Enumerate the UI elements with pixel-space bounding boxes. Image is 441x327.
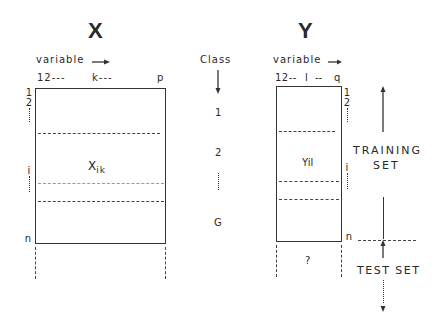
training-lower-line bbox=[383, 197, 384, 239]
matrix-y-extension-right bbox=[341, 245, 342, 277]
training-arrow-up-icon bbox=[380, 86, 386, 135]
matrix-x-class-divider-1 bbox=[38, 133, 160, 134]
matrix-x-row-tick-1: 1 bbox=[25, 88, 33, 97]
matrix-x-class-divider-3 bbox=[38, 201, 164, 202]
matrix-x-variable-label: variable bbox=[36, 55, 110, 65]
matrix-y-title: Y bbox=[298, 20, 313, 42]
matrix-x-extension-left bbox=[35, 247, 36, 279]
matrix-x-element: Xik bbox=[88, 160, 106, 175]
matrix-y-element: Yil bbox=[302, 158, 313, 168]
matrix-y-col-tick-l: l bbox=[305, 73, 308, 83]
matrix-x-title: X bbox=[88, 20, 103, 42]
class-ellipsis bbox=[218, 173, 219, 190]
variable-text: variable bbox=[36, 54, 84, 65]
test-arrow-down-icon bbox=[380, 299, 386, 315]
training-set-label-line1: TRAINING bbox=[353, 145, 422, 156]
matrix-x-row-tick-i: i bbox=[25, 166, 33, 175]
class-item-G: G bbox=[214, 218, 222, 228]
matrix-y-col-tick-1: 12-- bbox=[275, 73, 297, 83]
matrix-x-col-tick-1: 12--- bbox=[37, 73, 66, 83]
matrix-y-row-ellipsis-1 bbox=[347, 108, 348, 122]
matrix-y-class-divider-2 bbox=[279, 181, 339, 182]
class-item-1: 1 bbox=[215, 108, 221, 118]
matrix-y-col-tick-dash: -- bbox=[315, 73, 322, 83]
matrix-y-row-ellipsis-2 bbox=[347, 173, 348, 189]
matrix-y-class-divider-1 bbox=[279, 131, 335, 132]
matrix-y-row-tick-n: n bbox=[345, 232, 353, 241]
matrix-x-row-ellipsis-2 bbox=[29, 176, 30, 192]
matrix-x-extension-right bbox=[165, 247, 166, 279]
arrow-right-icon bbox=[92, 57, 110, 63]
arrow-right-icon bbox=[328, 57, 342, 63]
class-label: Class bbox=[200, 55, 231, 65]
class-item-2: 2 bbox=[215, 148, 221, 158]
variable-text: variable bbox=[273, 54, 321, 65]
matrix-y-row-tick-1: 1 bbox=[343, 88, 351, 97]
arrow-down-icon bbox=[215, 70, 221, 98]
matrix-y-class-divider-3 bbox=[279, 199, 339, 200]
matrix-x-row-tick-n: n bbox=[24, 234, 32, 243]
training-set-label-line2: SET bbox=[373, 160, 400, 171]
test-set-label: TEST SET bbox=[357, 265, 421, 276]
matrix-y-col-tick-q: q bbox=[334, 73, 340, 83]
train-test-boundary bbox=[358, 240, 416, 241]
matrix-y-row-tick-i: i bbox=[343, 163, 351, 172]
test-arrow-up-icon bbox=[380, 240, 386, 261]
matrix-x-row-ellipsis-1 bbox=[29, 108, 30, 122]
unknown-class-label: ? bbox=[305, 256, 310, 266]
matrix-x-col-tick-p: p bbox=[157, 73, 163, 83]
matrix-x-row-tick-2: 2 bbox=[25, 98, 33, 107]
matrix-y-variable-label: variable bbox=[273, 55, 342, 65]
matrix-y-row-tick-2: 2 bbox=[343, 98, 351, 107]
matrix-y-extension-left bbox=[276, 245, 277, 277]
matrix-x-col-tick-k: k--- bbox=[92, 73, 113, 83]
matrix-x-class-divider-2 bbox=[38, 183, 164, 184]
